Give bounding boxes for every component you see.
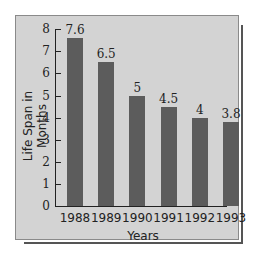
x-tick-label: 1993 xyxy=(215,211,247,225)
y-tick-label: 7 xyxy=(36,45,50,57)
bar-1992 xyxy=(192,118,208,206)
x-tick-label: 1988 xyxy=(59,211,91,225)
x-tick-label: 1991 xyxy=(153,211,185,225)
y-tick-label: 5 xyxy=(36,90,50,102)
bar-value-label: 4.5 xyxy=(154,93,184,105)
y-tick-label: 4 xyxy=(36,112,50,124)
x-tick-label: 1990 xyxy=(121,211,153,225)
y-tick-label: 3 xyxy=(36,134,50,146)
x-tick-label: 1989 xyxy=(90,211,122,225)
bar-value-label: 7.6 xyxy=(60,24,90,36)
bar-1991 xyxy=(161,107,177,206)
y-tick-label: 0 xyxy=(36,200,50,212)
bar-1988 xyxy=(67,38,83,206)
bar-1993 xyxy=(223,122,239,206)
bar-1990 xyxy=(129,96,145,207)
x-tick-label: 1992 xyxy=(184,211,216,225)
y-axis-line xyxy=(55,29,56,207)
x-axis-label: Years xyxy=(118,229,168,243)
bar-value-label: 6.5 xyxy=(91,48,121,60)
y-tick-label: 1 xyxy=(36,178,50,190)
bar-value-label: 5 xyxy=(122,82,152,94)
x-axis-line xyxy=(55,206,227,207)
y-tick-label: 6 xyxy=(36,67,50,79)
y-tick-label: 8 xyxy=(36,23,50,35)
bar-value-label: 3.8 xyxy=(216,108,246,120)
bar-value-label: 4 xyxy=(185,104,215,116)
y-tick-label: 2 xyxy=(36,156,50,168)
bar-1989 xyxy=(98,62,114,206)
